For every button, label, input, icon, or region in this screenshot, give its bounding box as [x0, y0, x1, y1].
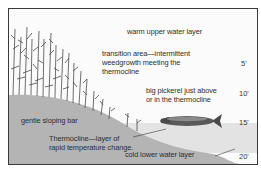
pickerel-label-2: or in the thermocline	[146, 96, 211, 105]
depth-marker-5: 5'	[241, 59, 247, 68]
diagram-frame: warm upper water layer transition area—i…	[8, 8, 258, 165]
cold-layer-label: cold lower water layer	[125, 151, 194, 160]
depth-marker-10: 10'	[239, 89, 249, 98]
thermocline-label-2: rapid temperature change.	[49, 144, 133, 153]
warm-layer-label: warm upper water layer	[127, 28, 202, 37]
depth-marker-20: 20'	[239, 152, 249, 161]
sloping-bar-label: gentle sloping bar	[21, 117, 78, 126]
transition-label-3: thermocline	[102, 68, 139, 77]
depth-marker-15: 15'	[239, 118, 249, 127]
